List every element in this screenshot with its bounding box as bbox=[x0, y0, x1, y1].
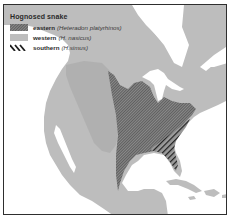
southern-stripe-swatch-icon bbox=[10, 44, 28, 51]
western-solid-swatch-icon bbox=[10, 34, 28, 41]
legend-item-western: western (H. nasicus) bbox=[10, 33, 140, 42]
legend-item-southern: southern (H.simus) bbox=[10, 43, 140, 52]
legend-item-eastern: eastern (Heteradon platyrhinos) bbox=[10, 23, 140, 32]
hispaniola bbox=[204, 189, 220, 197]
map-title: Hognosed snake bbox=[10, 13, 140, 20]
legend-western-scientific: (H. nasicus) bbox=[58, 34, 91, 41]
puerto-rico bbox=[222, 194, 227, 198]
legend-western-name: western bbox=[33, 34, 56, 41]
map-frame: Hognosed snake eastern (Heteradon platyr… bbox=[3, 4, 227, 215]
map-legend: Hognosed snake eastern (Heteradon platyr… bbox=[10, 13, 140, 53]
legend-eastern-name: eastern bbox=[33, 24, 55, 31]
legend-eastern-scientific: (Heteradon platyrhinos) bbox=[57, 24, 122, 31]
legend-southern-name: southern bbox=[33, 44, 59, 51]
eastern-hatch-swatch-icon bbox=[10, 24, 28, 31]
legend-southern-scientific: (H.simus) bbox=[61, 44, 87, 51]
jamaica bbox=[188, 196, 196, 200]
cuba bbox=[166, 179, 202, 193]
